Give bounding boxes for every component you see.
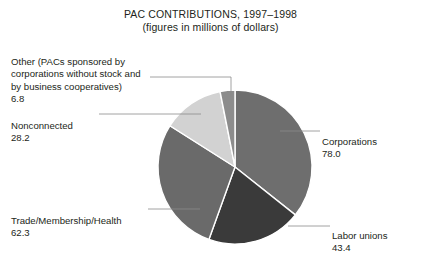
slice-value-trade: 62.3 (11, 227, 176, 239)
slice-label-other-text: Other (PACs sponsored by corporations wi… (11, 56, 141, 91)
slice-value-nonconnected: 28.2 (11, 132, 161, 144)
slice-value-labor: 43.4 (332, 242, 421, 254)
slice-label-labor-text: Labor unions (332, 230, 387, 241)
slice-label-labor-unions: Labor unions 43.4 (332, 218, 421, 267)
slice-label-corporations: Corporations 78.0 (322, 124, 417, 173)
pie-chart-figure: PAC CONTRIBUTIONS, 1997–1998 (figures in… (0, 0, 421, 270)
slice-label-other: Other (PACs sponsored by corporations wi… (11, 44, 186, 117)
slice-label-trade-text: Trade/Membership/Health (11, 215, 122, 226)
slice-label-nonconnected-text: Nonconnected (11, 120, 73, 131)
slice-value-corporations: 78.0 (322, 148, 417, 160)
slice-label-trade-membership-health: Trade/Membership/Health 62.3 (11, 203, 176, 252)
slice-value-other: 6.8 (11, 93, 186, 105)
slice-label-nonconnected: Nonconnected 28.2 (11, 108, 161, 157)
slice-label-corporations-text: Corporations (322, 136, 377, 147)
